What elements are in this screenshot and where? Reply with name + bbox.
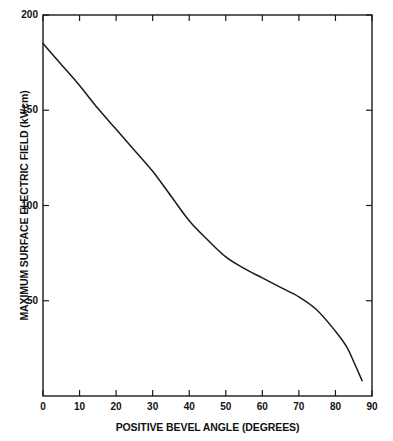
x-tick-label-80: 80 <box>322 401 348 412</box>
x-tick-label-0: 0 <box>30 401 56 412</box>
x-tick-label-70: 70 <box>286 401 312 412</box>
x-tick-label-60: 60 <box>249 401 275 412</box>
x-tick-label-20: 20 <box>103 401 129 412</box>
x-tick-label-50: 50 <box>213 401 239 412</box>
x-tick-label-90: 90 <box>359 401 385 412</box>
x-axis-tick-labels: 0 10 20 30 40 50 60 70 80 90 <box>0 0 393 441</box>
x-tick-label-10: 10 <box>67 401 93 412</box>
chart-figure: MAXIMUM SURFACE ELECTRIC FIELD (kV/cm) P… <box>0 0 393 441</box>
x-tick-label-30: 30 <box>140 401 166 412</box>
x-tick-label-40: 40 <box>176 401 202 412</box>
